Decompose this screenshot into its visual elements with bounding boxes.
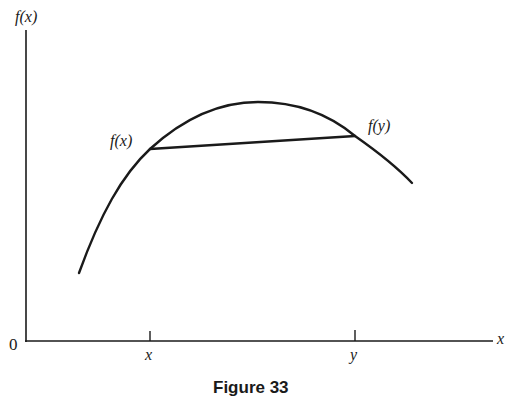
point-label-fx: f(x) <box>110 133 132 149</box>
chord-line <box>150 136 355 149</box>
y-axis-label: f(x) <box>15 9 37 25</box>
concave-curve <box>79 102 412 273</box>
x-axis-label: x <box>497 331 504 347</box>
figure-caption: Figure 33 <box>213 379 289 396</box>
tick-label-x: x <box>145 347 152 363</box>
tick-label-y: y <box>350 347 357 363</box>
origin-label: 0 <box>9 336 18 353</box>
point-label-fy: f(y) <box>368 118 390 134</box>
